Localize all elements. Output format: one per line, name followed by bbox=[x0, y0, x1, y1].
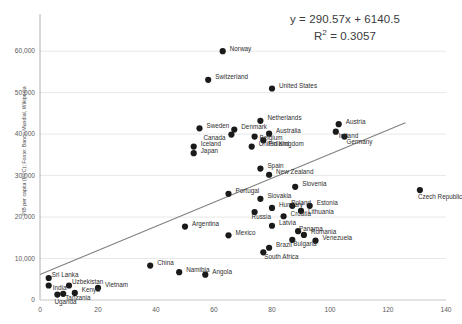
point-label: Bulgaria bbox=[293, 240, 316, 247]
point-label: Czech Republic bbox=[418, 193, 462, 200]
point-label: India bbox=[53, 284, 67, 291]
data-point[interactable] bbox=[182, 223, 188, 229]
point-label: Uganda bbox=[54, 298, 76, 305]
point-label: Estonia bbox=[317, 199, 338, 206]
data-point[interactable] bbox=[205, 77, 211, 83]
data-point[interactable] bbox=[266, 245, 272, 251]
data-point[interactable] bbox=[225, 232, 231, 238]
data-point[interactable] bbox=[336, 121, 342, 127]
point-label: Latvia bbox=[279, 219, 296, 226]
point-label: Kenya bbox=[82, 286, 100, 293]
regression-equation: y = 290.57x + 6140.5 bbox=[255, 12, 435, 28]
y-tick-label: 0 bbox=[0, 296, 35, 303]
point-label: Uzbekistan bbox=[72, 278, 103, 285]
point-label: South Africa bbox=[264, 253, 298, 260]
point-label: Switzerland bbox=[215, 73, 248, 80]
point-label: Lithuania bbox=[308, 208, 334, 215]
point-label: Angola bbox=[212, 268, 232, 275]
data-point[interactable] bbox=[292, 184, 298, 190]
data-point[interactable] bbox=[269, 85, 275, 91]
point-label: United Kingdom bbox=[259, 140, 304, 147]
point-label: Netherlands bbox=[267, 114, 301, 121]
point-label: Venezuela bbox=[323, 234, 353, 241]
r-squared-value: = 0.3057 bbox=[327, 29, 376, 41]
x-tick-label: 60 bbox=[199, 306, 229, 313]
point-label: Germany bbox=[347, 138, 373, 145]
x-tick-label: 0 bbox=[25, 306, 55, 313]
x-tick-label: 40 bbox=[141, 306, 171, 313]
point-label: Sri Lanka bbox=[52, 271, 79, 278]
x-tick-label: 140 bbox=[431, 306, 461, 313]
point-label: Argentina bbox=[192, 220, 219, 227]
regression-annotation: y = 290.57x + 6140.5 R2 = 0.3057 bbox=[255, 12, 435, 44]
data-point[interactable] bbox=[266, 172, 272, 178]
data-point[interactable] bbox=[269, 223, 275, 229]
point-label: New Zealand bbox=[276, 168, 313, 175]
point-label: Hungary bbox=[279, 201, 303, 208]
point-label: Sweden bbox=[207, 122, 230, 129]
point-label: Slovakia bbox=[267, 192, 291, 199]
trendline bbox=[40, 123, 405, 275]
point-label: Denmark bbox=[241, 123, 267, 130]
point-label: Mexico bbox=[236, 229, 256, 236]
y-tick-label: 40,000 bbox=[0, 130, 35, 137]
y-tick-label: 50,000 bbox=[0, 89, 35, 96]
point-label: Slovenia bbox=[302, 180, 326, 187]
point-label: Austria bbox=[346, 118, 366, 125]
data-point[interactable] bbox=[269, 205, 275, 211]
point-label: Portugal bbox=[236, 187, 260, 194]
point-label: Vietnam bbox=[105, 281, 128, 288]
x-tick-label: 100 bbox=[315, 306, 345, 313]
data-point[interactable] bbox=[191, 150, 197, 156]
x-tick-label: 20 bbox=[83, 306, 113, 313]
y-tick-label: 20,000 bbox=[0, 213, 35, 220]
point-label: Brazil bbox=[276, 241, 292, 248]
y-tick-label: 30,000 bbox=[0, 172, 35, 179]
point-label: China bbox=[157, 259, 174, 266]
x-tick-label: 80 bbox=[257, 306, 287, 313]
data-point[interactable] bbox=[257, 196, 263, 202]
y-tick-label: 10,000 bbox=[0, 255, 35, 262]
y-tick-label: 60,000 bbox=[0, 47, 35, 54]
point-label: Norway bbox=[230, 45, 251, 52]
data-point[interactable] bbox=[257, 165, 263, 171]
point-label: Croatia bbox=[291, 210, 311, 217]
data-point[interactable] bbox=[228, 131, 234, 137]
point-label: Japan bbox=[201, 147, 218, 154]
data-point[interactable] bbox=[225, 191, 231, 197]
data-point[interactable] bbox=[252, 134, 258, 140]
data-point[interactable] bbox=[147, 262, 153, 268]
x-tick-label: 120 bbox=[373, 306, 403, 313]
point-label: United States bbox=[279, 82, 317, 89]
data-point[interactable] bbox=[196, 125, 202, 131]
point-label: Namibia bbox=[186, 266, 209, 273]
data-point[interactable] bbox=[220, 48, 226, 54]
data-point[interactable] bbox=[249, 143, 255, 149]
data-point[interactable] bbox=[191, 143, 197, 149]
point-label: Russia bbox=[252, 213, 271, 220]
data-point[interactable] bbox=[301, 232, 307, 238]
r-squared: R2 = 0.3057 bbox=[255, 28, 435, 44]
data-point[interactable] bbox=[176, 269, 182, 275]
data-point[interactable] bbox=[46, 282, 52, 288]
